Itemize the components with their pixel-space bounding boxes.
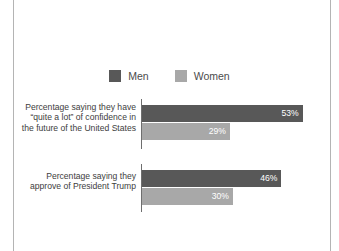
chart-legend: Men Women <box>0 70 339 82</box>
category-label: Percentage saying they approve of Presid… <box>18 171 136 192</box>
legend-entry-men: Men <box>109 70 148 82</box>
legend-entry-women: Women <box>175 70 230 82</box>
bar-men: 53% <box>142 105 303 122</box>
category-label: Percentage saying they have “quite a lot… <box>18 102 136 133</box>
legend-swatch-icon <box>109 70 121 82</box>
legend-label-women: Women <box>194 71 230 82</box>
bar-value-label: 53% <box>282 109 303 118</box>
bar-stack: 46% 30% <box>142 170 281 205</box>
bar-stack: 53% 29% <box>142 105 303 140</box>
bar-group: Percentage saying they have “quite a lot… <box>0 99 339 149</box>
plot-area: Percentage saying they have “quite a lot… <box>0 95 339 215</box>
bar-men: 46% <box>142 170 281 187</box>
bar-value-label: 29% <box>209 127 230 136</box>
bar-women: 29% <box>142 123 230 140</box>
chart-figure: Men Women Percentage saying they have “q… <box>0 0 339 251</box>
bar-value-label: 46% <box>260 174 281 183</box>
legend-label-men: Men <box>128 71 148 82</box>
bar-value-label: 30% <box>212 192 233 201</box>
bar-group: Percentage saying they approve of Presid… <box>0 164 339 212</box>
bar-women: 30% <box>142 188 233 205</box>
legend-swatch-icon <box>175 70 187 82</box>
